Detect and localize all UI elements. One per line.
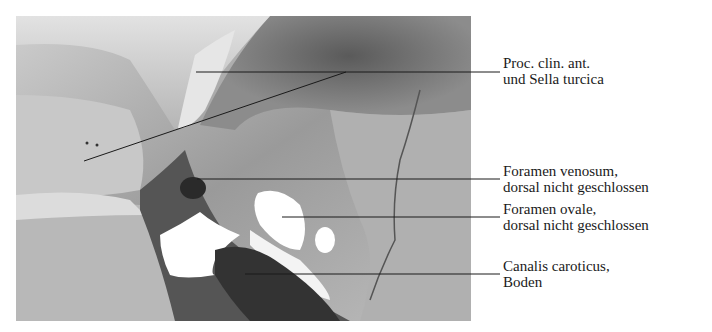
label-line: Proc. clin. ant. [503,55,604,71]
label-line: Foramen venosum, [503,163,649,179]
label-line: Canalis caroticus, [503,258,610,274]
label-line: Boden [503,274,610,290]
label-line: Foramen ovale, [503,201,649,217]
bone-illustration [16,16,471,321]
label-line: dorsal nicht geschlossen [503,217,649,233]
label-line: und Sella turcica [503,71,604,87]
label-canalis-caroticus: Canalis caroticus, Boden [503,258,610,290]
label-line: dorsal nicht geschlossen [503,179,649,195]
label-foramen-ovale: Foramen ovale, dorsal nicht geschlossen [503,201,649,233]
label-proc-clin-ant: Proc. clin. ant. und Sella turcica [503,55,604,87]
label-foramen-venosum: Foramen venosum, dorsal nicht geschlosse… [503,163,649,195]
